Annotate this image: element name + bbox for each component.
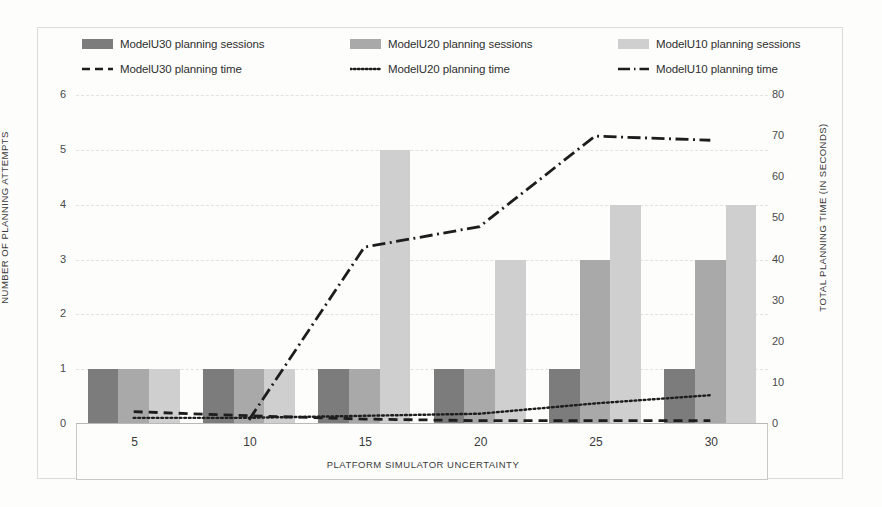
legend-label: ModelU30 planning time (120, 63, 242, 75)
y-axis-right-title: TOTAL PLANNING TIME (IN SECONDS) (817, 28, 828, 408)
chart-legend: ModelU30 planning sessions ModelU20 plan… (37, 30, 843, 86)
y-axis-right-tick-label: 70 (772, 130, 800, 141)
legend-label: ModelU30 planning sessions (120, 38, 264, 50)
x-axis-area: 51015202530 PLATFORM SIMULATOR UNCERTAIN… (76, 424, 768, 480)
legend-item-u20-time[interactable]: ModelU20 planning time (305, 57, 573, 81)
y-axis-right-tick-label: 80 (772, 89, 800, 100)
y-axis-right-tick-label: 40 (772, 254, 800, 265)
chart-figure: ModelU30 planning sessions ModelU20 plan… (0, 0, 882, 507)
y-axis-left-tick-label: 5 (40, 144, 66, 155)
legend-row-sessions: ModelU30 planning sessions ModelU20 plan… (37, 32, 843, 56)
y-axis-left-tick-label: 6 (40, 89, 66, 100)
y-axis-left-tick-label: 0 (40, 418, 66, 429)
swatch-dark-icon (82, 39, 113, 49)
x-axis-tick-label: 10 (230, 435, 270, 449)
y-axis-left-tick-label: 2 (40, 308, 66, 319)
lines-layer (76, 95, 768, 424)
plot-area (76, 95, 768, 424)
legend-item-u30-sessions[interactable]: ModelU30 planning sessions (37, 32, 305, 56)
y-axis-left-tick-label: 4 (40, 199, 66, 210)
y-axis-left-title: NUMBER OF PLANNING ATTEMPTS (0, 28, 10, 408)
x-axis-tick-label: 30 (691, 435, 731, 449)
swatch-light-icon (618, 39, 649, 49)
y-axis-right-tick-label: 50 (772, 212, 800, 223)
legend-label: ModelU10 planning time (656, 63, 778, 75)
y-axis-right-tick-label: 20 (772, 336, 800, 347)
line-series (249, 136, 710, 420)
y-axis-right-tick-label: 10 (772, 377, 800, 388)
dashed-line-icon (82, 64, 113, 74)
dotted-line-icon (350, 64, 381, 74)
x-axis-tick-label: 25 (576, 435, 616, 449)
legend-label: ModelU10 planning sessions (656, 38, 800, 50)
y-axis-left-tick-label: 3 (40, 254, 66, 265)
legend-row-times: ModelU30 planning time ModelU20 planning… (37, 57, 843, 81)
line-series (134, 412, 711, 421)
line-series (134, 395, 711, 418)
dashdot-line-icon (618, 64, 649, 74)
legend-label: ModelU20 planning sessions (388, 38, 532, 50)
legend-item-u10-sessions[interactable]: ModelU10 planning sessions (573, 32, 841, 56)
x-axis-tick-label: 20 (461, 435, 501, 449)
x-axis-title: PLATFORM SIMULATOR UNCERTAINTY (77, 459, 769, 470)
legend-item-u10-time[interactable]: ModelU10 planning time (573, 57, 841, 81)
y-axis-right-tick-label: 30 (772, 295, 800, 306)
x-axis-tick-label: 5 (115, 435, 155, 449)
y-axis-right-tick-label: 60 (772, 171, 800, 182)
legend-label: ModelU20 planning time (388, 63, 510, 75)
legend-item-u20-sessions[interactable]: ModelU20 planning sessions (305, 32, 573, 56)
swatch-medium-icon (350, 39, 381, 49)
y-axis-right-tick-label: 0 (772, 418, 800, 429)
legend-item-u30-time[interactable]: ModelU30 planning time (37, 57, 305, 81)
x-axis-tick-label: 15 (345, 435, 385, 449)
y-axis-left-tick-label: 1 (40, 363, 66, 374)
